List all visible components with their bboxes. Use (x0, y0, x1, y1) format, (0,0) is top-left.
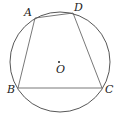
quadrilateral-abcd (18, 13, 102, 88)
label-point-b: B (6, 83, 15, 96)
geometry-diagram: A D C B O (0, 0, 114, 127)
label-point-d: D (73, 1, 83, 14)
label-point-c: C (105, 83, 114, 96)
label-point-a: A (23, 6, 32, 19)
label-center-o: O (56, 63, 65, 76)
